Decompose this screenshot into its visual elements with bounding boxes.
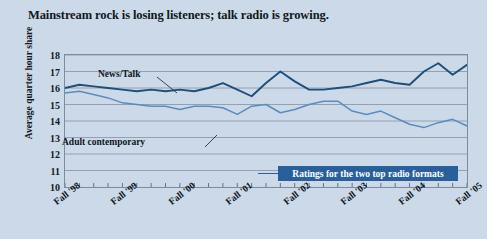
y-tick-18: 18 <box>38 50 60 61</box>
legend-banner: Ratings for the two top radio formats <box>278 166 458 181</box>
y-tick-15: 15 <box>38 99 60 110</box>
y-tick-14: 14 <box>38 116 60 127</box>
legend-leader-line <box>258 173 280 174</box>
y-tick-13: 13 <box>38 132 60 143</box>
y-tick-16: 16 <box>38 83 60 94</box>
y-tick-17: 17 <box>38 66 60 77</box>
y-tick-11: 11 <box>38 165 60 176</box>
series-line-adult-contemporary <box>65 91 467 127</box>
chart-title: Mainstream rock is losing listeners; tal… <box>28 8 329 23</box>
y-axis-label: Average quarter hour share <box>24 18 34 148</box>
series-label-adult-contemporary: Adult contemporary <box>62 137 145 147</box>
legend-banner-text: Ratings for the two top radio formats <box>292 169 443 179</box>
y-tick-10: 10 <box>38 182 60 193</box>
chart-figure: Mainstream rock is losing listeners; tal… <box>0 0 487 239</box>
leader-adult-contemporary <box>205 135 217 147</box>
y-tick-12: 12 <box>38 149 60 160</box>
series-label-news-talk: News/Talk <box>98 69 140 79</box>
